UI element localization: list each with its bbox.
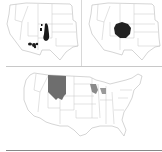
map-panel-b <box>82 0 162 66</box>
map-panel-a <box>0 0 81 66</box>
bottom-rule <box>6 150 162 151</box>
western-us-map-a <box>0 0 81 66</box>
contiguous-us-map <box>0 70 162 145</box>
map-panel-c <box>0 70 162 145</box>
horizontal-divider <box>6 66 162 67</box>
western-us-map-b <box>82 0 162 66</box>
